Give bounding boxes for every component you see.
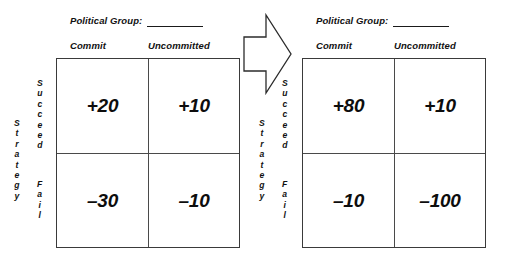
axis-letter: a xyxy=(259,149,264,159)
column-header-commit-before: Commit xyxy=(70,40,106,51)
matrix-cell-fail-uncommitted-before: –10 xyxy=(148,153,239,247)
axis-letter: g xyxy=(259,180,264,190)
political-group-blank-after[interactable] xyxy=(393,26,449,27)
row-letter: a xyxy=(37,189,42,199)
political-group-blank-before[interactable] xyxy=(147,26,203,27)
row-header-succeed-after: S u c c e e d xyxy=(282,78,288,151)
matrix-cell-fail-uncommitted-after: –100 xyxy=(394,153,485,247)
matrix-panel-after: Political Group: Commit Uncommitted S t … xyxy=(253,0,507,268)
row-letter: u xyxy=(37,88,42,98)
column-header-uncommitted-after: Uncommitted xyxy=(394,40,456,51)
row-letter: i xyxy=(283,200,285,210)
matrix-cell-succeed-commit-after: +80 xyxy=(303,59,394,153)
row-header-fail-before: F a i l xyxy=(37,179,42,221)
axis-letter: t xyxy=(260,128,263,138)
row-letter: e xyxy=(37,120,42,130)
row-axis-label-strategy-after: S t r a t e g y xyxy=(259,118,265,201)
axis-letter: a xyxy=(14,149,19,159)
axis-letter: S xyxy=(259,118,265,128)
axis-letter: t xyxy=(15,160,18,170)
row-letter: l xyxy=(38,210,40,220)
row-header-fail-after: F a i l xyxy=(282,179,287,221)
payoff-matrix-after: +80 +10 –10 –100 xyxy=(302,58,486,248)
row-letter: F xyxy=(282,179,287,189)
political-group-label-after: Political Group: xyxy=(316,15,388,26)
axis-letter: S xyxy=(14,118,20,128)
row-letter: i xyxy=(38,200,40,210)
row-letter: e xyxy=(282,120,287,130)
axis-letter: e xyxy=(14,170,19,180)
matrix-cell-fail-commit-before: –30 xyxy=(57,153,148,247)
axis-letter: y xyxy=(259,191,264,201)
row-letter: d xyxy=(37,140,42,150)
row-letter: l xyxy=(283,210,285,220)
payoff-matrix-before: +20 +10 –30 –10 xyxy=(56,58,240,248)
row-letter: F xyxy=(37,179,42,189)
axis-letter: g xyxy=(14,180,19,190)
row-letter: S xyxy=(282,78,288,88)
row-letter: e xyxy=(37,130,42,140)
axis-letter: y xyxy=(14,191,19,201)
row-header-succeed-before: S u c c e e d xyxy=(37,78,43,151)
row-axis-label-strategy-before: S t r a t e g y xyxy=(14,118,20,201)
axis-letter: e xyxy=(259,170,264,180)
row-letter: S xyxy=(37,78,43,88)
row-letter: c xyxy=(37,109,42,119)
row-letter: e xyxy=(282,130,287,140)
matrix-cell-fail-commit-after: –10 xyxy=(303,153,394,247)
row-letter: c xyxy=(37,99,42,109)
matrix-cell-succeed-uncommitted-before: +10 xyxy=(148,59,239,153)
row-letter: a xyxy=(282,189,287,199)
axis-letter: r xyxy=(260,139,263,149)
row-letter: c xyxy=(282,99,287,109)
row-letter: u xyxy=(282,88,287,98)
row-letter: c xyxy=(282,109,287,119)
axis-letter: t xyxy=(260,160,263,170)
column-header-commit-after: Commit xyxy=(316,40,352,51)
row-letter: d xyxy=(282,140,287,150)
axis-letter: t xyxy=(15,128,18,138)
axis-letter: r xyxy=(15,139,18,149)
matrix-cell-succeed-uncommitted-after: +10 xyxy=(394,59,485,153)
matrix-cell-succeed-commit-before: +20 xyxy=(57,59,148,153)
matrix-panel-before: Political Group: Commit Uncommitted S t … xyxy=(0,0,253,268)
political-group-label-before: Political Group: xyxy=(70,15,142,26)
column-header-uncommitted-before: Uncommitted xyxy=(148,40,210,51)
